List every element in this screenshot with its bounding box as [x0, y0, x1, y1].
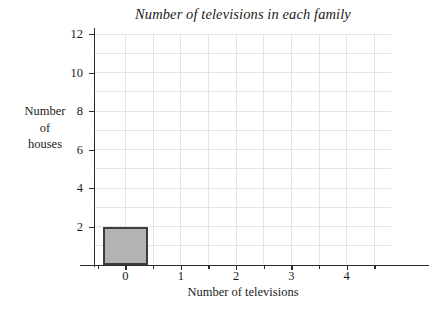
x-tick-mark-minor	[208, 265, 209, 269]
y-tick-label: 10	[55, 67, 83, 80]
y-axis-spine	[94, 28, 95, 267]
y-axis-title: Number of houses	[2, 103, 88, 153]
x-tick-mark-minor	[319, 265, 320, 269]
x-axis-title: Number of televisions	[95, 285, 391, 300]
x-tick-label: 1	[166, 269, 196, 283]
bar	[103, 227, 147, 266]
x-tick-label: 4	[332, 269, 362, 283]
y-tick-mark	[89, 34, 95, 35]
y-tick-mark	[89, 73, 95, 74]
y-axis-title-line-2: of	[2, 120, 88, 137]
y-axis-title-line-3: houses	[2, 136, 88, 153]
plot-area	[95, 34, 391, 265]
y-tick-mark	[89, 227, 95, 228]
x-tick-label: 3	[276, 269, 306, 283]
y-tick-label: 2	[55, 221, 83, 234]
x-tick-label: 0	[110, 269, 140, 283]
y-tick-label: 12	[55, 28, 83, 41]
y-tick-mark	[89, 150, 95, 151]
y-tick-label: 4	[55, 182, 83, 195]
y-tick-mark	[89, 188, 95, 189]
y-axis-title-line-1: Number	[2, 103, 88, 120]
bar-chart: Number of televisions in each family 246…	[0, 0, 435, 311]
x-tick-mark-minor	[264, 265, 265, 269]
x-tick-mark-minor	[153, 265, 154, 269]
x-tick-label: 2	[221, 269, 251, 283]
x-tick-mark-minor	[98, 265, 99, 269]
chart-title: Number of televisions in each family	[95, 5, 391, 23]
x-tick-mark-minor	[374, 265, 375, 269]
y-tick-mark	[89, 111, 95, 112]
x-axis-spine	[80, 265, 429, 266]
